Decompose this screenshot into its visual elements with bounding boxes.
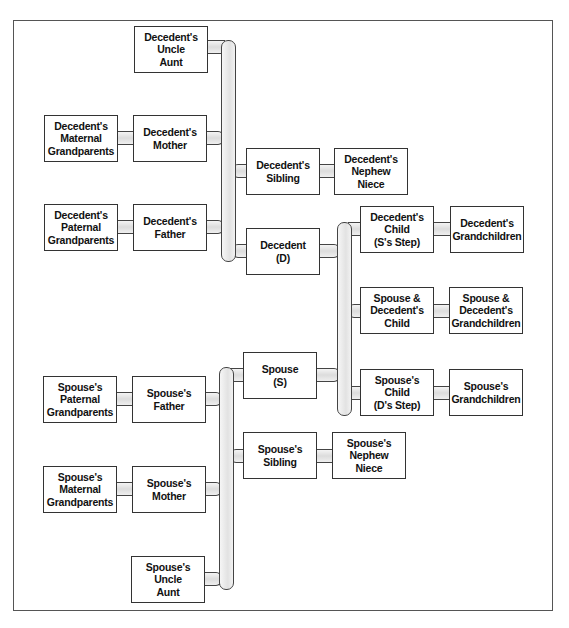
node-decedent-paternal-grandparents: Decedent's Paternal Grandparents [44,204,118,251]
children-bus [337,222,352,416]
node-spouse-sibling: Spouse's Sibling [243,432,317,479]
node-spouse-uncle-aunt: Spouse's Uncle Aunt [131,556,205,603]
node-decedent-child: Decedent's Child (S's Step) [360,206,434,253]
spouse-parents-bus [219,367,234,590]
connector-patgp-father [118,220,133,234]
node-decedent-nephew-niece: Decedent's Nephew Niece [334,148,408,195]
node-decedent-father: Decedent's Father [133,204,207,251]
connector-spsibling-nephew [317,449,332,463]
node-decedent: Decedent (D) [246,228,320,275]
connector-joint-child-grandchildren [434,304,449,318]
node-spouse-father: Spouse's Father [132,376,206,423]
node-spouse-paternal-grandparents: Spouse's Paternal Grandparents [43,376,117,423]
node-decedent-mother: Decedent's Mother [133,115,207,162]
node-spouse-mother: Spouse's Mother [132,466,206,513]
node-decedent-uncle-aunt: Decedent's Uncle Aunt [134,26,208,73]
node-decedent-sibling: Decedent's Sibling [246,148,320,195]
connector-spgp-father [117,392,132,406]
node-decedent-grandchildren: Decedent's Grandchildren [450,206,524,253]
connector-sibling-nephew [320,164,334,178]
connector-spouse-child-grandchildren [434,386,449,400]
node-joint-child: Spouse & Decedent's Child [360,287,434,334]
node-decedent-maternal-grandparents: Decedent's Maternal Grandparents [44,115,118,162]
node-joint-grandchildren: Spouse & Decedent's Grandchildren [449,287,523,334]
connector-decedent-child-grandchildren [434,222,450,236]
node-spouse-child: Spouse's Child (D's Step) [360,369,434,416]
node-spouse-nephew-niece: Spouse's Nephew Niece [332,432,406,479]
node-spouse-maternal-grandparents: Spouse's Maternal Grandparents [43,466,117,513]
connector-matgp-mother [118,131,133,145]
node-spouse: Spouse (S) [243,352,317,399]
decedent-parents-bus [221,40,236,262]
connector-smgp-mother [117,482,132,496]
node-spouse-grandchildren: Spouse's Grandchildren [449,369,523,416]
